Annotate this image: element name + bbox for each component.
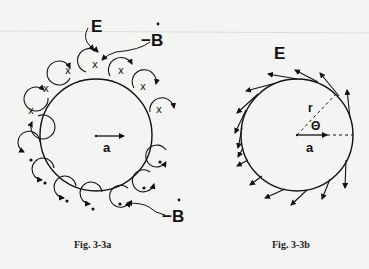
tangent-arrows	[235, 70, 350, 205]
label-a-right: a	[306, 140, 314, 155]
svg-text:x: x	[65, 65, 71, 76]
label-E-left: E	[91, 17, 102, 36]
caption-a: Fig. 3-3a	[74, 239, 111, 250]
svg-text:x: x	[156, 104, 162, 115]
svg-text:x: x	[140, 81, 146, 92]
label-Bdot-top: −B	[141, 31, 163, 50]
svg-text:x: x	[118, 65, 124, 76]
svg-text:x: x	[43, 83, 49, 94]
diagram-canvas: x x x x x x x	[0, 0, 369, 269]
label-theta: Θ	[311, 119, 320, 133]
svg-text:x: x	[28, 105, 34, 116]
figure-b: r Θ a E Fig. 3-3b	[235, 44, 353, 250]
label-E-right: E	[274, 44, 285, 63]
label-r: r	[308, 101, 313, 115]
label-Bdot-bottom: −B	[162, 207, 184, 226]
label-a-left: a	[103, 140, 111, 155]
caption-b: Fig. 3-3b	[272, 239, 310, 250]
figure-a: x x x x x x x	[18, 17, 184, 250]
svg-text:x: x	[92, 59, 98, 70]
